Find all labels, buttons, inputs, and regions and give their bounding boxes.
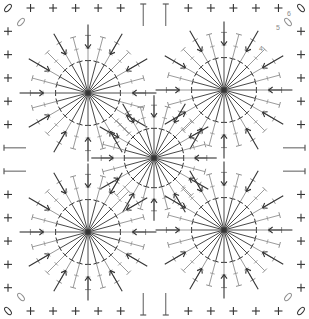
row-label: 6	[287, 10, 291, 17]
row-label: 4	[259, 45, 263, 52]
row-label: 5	[276, 24, 280, 31]
crochet-chart: 6 5 4	[0, 0, 309, 319]
